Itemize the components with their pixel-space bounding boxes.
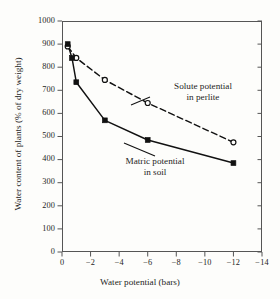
data-point-marker [145, 138, 150, 143]
annotation-leader [124, 143, 155, 156]
x-tick-label: −4 [106, 259, 132, 267]
solute-annotation-line1: Solute potential [148, 81, 258, 92]
y-axis-ticks [58, 21, 63, 252]
series-annotation-matric: Matric potential in soil [100, 156, 210, 179]
y-axis-title: Water content of plants (% of dry weight… [13, 12, 23, 256]
series-annotation-solute: Solute potential in perlite [148, 81, 258, 104]
y-axis-ticks-right [258, 21, 263, 252]
x-tick-label: −8 [163, 259, 189, 267]
x-tick-label: −12 [220, 259, 246, 267]
data-point-marker [74, 80, 79, 85]
x-tick-label: 0 [49, 259, 75, 267]
data-point-marker [65, 42, 70, 47]
y-tick-label: 600 [21, 109, 55, 117]
chart-figure: 01002003004005006007008009001000 0−2−4−6… [0, 0, 280, 299]
y-tick-label: 800 [21, 63, 55, 71]
y-tick-label: 500 [21, 132, 55, 140]
data-point-marker [70, 56, 75, 61]
matric-annotation-line1: Matric potential [100, 156, 210, 167]
y-tick-label: 700 [21, 86, 55, 94]
x-tick-label: −10 [192, 259, 218, 267]
matric-annotation-line2: in soil [100, 167, 210, 178]
y-tick-label: 300 [21, 178, 55, 186]
annotation-leader-lines [124, 97, 155, 156]
y-tick-label: 1000 [21, 17, 55, 25]
data-point-marker [231, 140, 236, 145]
x-tick-label: −14 [249, 259, 275, 267]
y-tick-label: 200 [21, 202, 55, 210]
y-tick-label: 400 [21, 155, 55, 163]
data-point-marker [102, 77, 107, 82]
solute-annotation-line2: in perlite [148, 92, 258, 103]
x-tick-label: −6 [135, 259, 161, 267]
y-tick-label: 100 [21, 225, 55, 233]
data-point-marker [231, 161, 236, 166]
y-tick-label: 900 [21, 40, 55, 48]
y-tick-label: 0 [21, 248, 55, 256]
data-point-marker [102, 118, 107, 123]
x-tick-label: −2 [78, 259, 104, 267]
x-axis-ticks [62, 252, 262, 257]
x-axis-title: Water potential (bars) [0, 277, 280, 287]
